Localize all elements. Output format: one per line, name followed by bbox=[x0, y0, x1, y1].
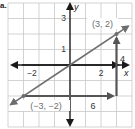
y-tick-3: 3 bbox=[61, 13, 66, 23]
point-3-2 bbox=[115, 32, 119, 36]
run-label: 6 bbox=[90, 101, 95, 111]
x-tick-neg2: −2 bbox=[27, 68, 37, 78]
y-tick-1: 1 bbox=[61, 44, 66, 54]
y-axis-label: y bbox=[73, 2, 79, 12]
graph-line-down bbox=[11, 65, 70, 104]
point-label-3-2: (3, 2) bbox=[92, 19, 113, 29]
point-neg3-neg2 bbox=[22, 94, 26, 98]
point-label-neg3-neg2: (−3, −2) bbox=[30, 101, 62, 111]
x-axis-label: x bbox=[123, 68, 129, 78]
rise-label: 4 bbox=[120, 54, 125, 64]
coordinate-plane: x y −2 2 3 1 6 4 (3, 2) (−3, −2) bbox=[0, 0, 135, 129]
x-tick-2: 2 bbox=[99, 68, 104, 78]
